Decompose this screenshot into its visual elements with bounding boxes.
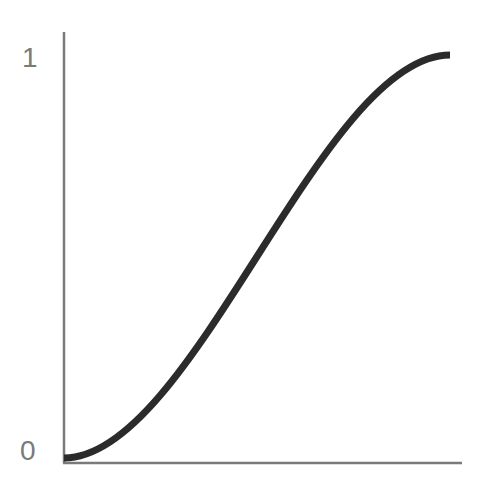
s-curve-line <box>64 55 450 458</box>
y-tick-label-0: 0 <box>20 437 36 465</box>
chart-canvas <box>0 0 495 489</box>
chart: 1 0 <box>0 0 495 489</box>
y-tick-label-1: 1 <box>22 44 38 72</box>
